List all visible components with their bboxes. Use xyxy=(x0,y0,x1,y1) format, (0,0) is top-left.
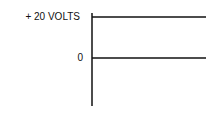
zero-volts-label: 0 xyxy=(77,52,83,63)
plus-20-volts-label: + 20 VOLTS xyxy=(25,11,80,22)
voltage-diagram: + 20 VOLTS 0 xyxy=(0,0,221,115)
